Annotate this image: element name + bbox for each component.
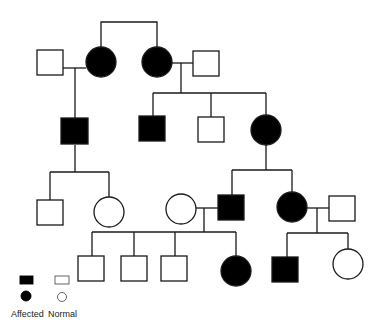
normal-male-IV-2 [121, 256, 147, 281]
normal-male-III-6 [329, 196, 355, 221]
normal-female-III-2 [94, 197, 124, 227]
individuals [37, 47, 363, 286]
normal-male-IV-3 [161, 256, 187, 281]
affected-male-II-1 [61, 118, 88, 144]
affected-male-II-2 [139, 116, 165, 141]
affected-male-IV-5 [272, 257, 298, 282]
normal-male-IV-1 [78, 256, 104, 281]
pedigree-chart [0, 0, 376, 328]
normal-male-II-3 [198, 117, 224, 142]
legend-normal-female-icon [58, 293, 67, 302]
affected-female-III-5 [277, 192, 307, 222]
legend-label-normal: Normal [48, 309, 77, 319]
legend-affected-female-icon [21, 291, 31, 301]
sibling-line-I2-I3 [101, 22, 157, 47]
normal-male-III-1 [37, 200, 63, 225]
normal-male-I-1 [37, 50, 63, 75]
legend-symbols [20, 276, 69, 302]
affected-female-I-2 [86, 47, 116, 77]
affected-female-II-4 [251, 115, 281, 145]
affected-male-III-4 [218, 195, 244, 220]
legend-affected-male-icon [20, 276, 33, 284]
legend-label-affected: Affected [11, 309, 44, 319]
legend-normal-male-icon [55, 276, 69, 284]
normal-male-I-4 [193, 51, 219, 76]
affected-female-IV-4 [221, 256, 251, 286]
affected-female-I-3 [142, 47, 172, 77]
normal-female-IV-6 [333, 249, 363, 279]
normal-female-III-3 [166, 194, 196, 224]
